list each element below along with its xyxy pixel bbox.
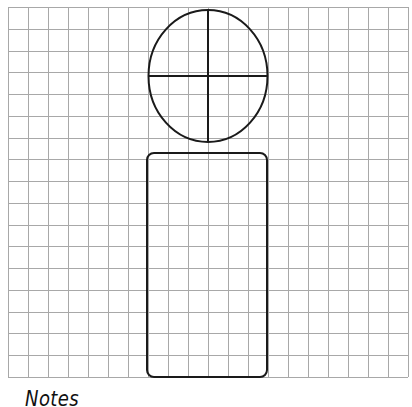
notes-label: Notes <box>25 386 79 407</box>
grid-canvas <box>0 0 412 407</box>
